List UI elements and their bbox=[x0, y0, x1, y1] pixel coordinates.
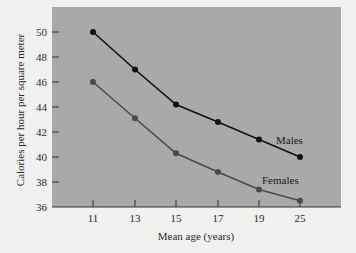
data-point bbox=[215, 119, 221, 125]
y-tick-label: 42 bbox=[36, 126, 47, 138]
data-point bbox=[90, 29, 96, 35]
x-tick-label: 13 bbox=[130, 212, 142, 224]
data-point bbox=[90, 79, 96, 85]
x-tick-label: 17 bbox=[213, 212, 225, 224]
data-point bbox=[256, 137, 262, 143]
data-point bbox=[297, 154, 303, 160]
data-point bbox=[173, 102, 179, 108]
y-tick-label: 36 bbox=[36, 201, 48, 213]
x-tick-label: 11 bbox=[88, 212, 99, 224]
x-tick-label: 19 bbox=[254, 212, 266, 224]
y-tick-label: 48 bbox=[36, 51, 48, 63]
data-point bbox=[173, 150, 179, 156]
y-tick-label: 44 bbox=[36, 101, 48, 113]
series-label-females: Females bbox=[262, 174, 299, 186]
data-point bbox=[256, 187, 262, 193]
y-tick-label: 50 bbox=[36, 26, 48, 38]
data-point bbox=[132, 67, 138, 73]
y-tick-label: 40 bbox=[36, 151, 48, 163]
y-tick-label: 46 bbox=[36, 76, 48, 88]
line-chart: 3638404244464850 111315171925 MalesFemal… bbox=[0, 0, 356, 253]
series-label-males: Males bbox=[276, 134, 303, 146]
data-point bbox=[132, 115, 138, 121]
y-tick-label: 38 bbox=[36, 176, 48, 188]
data-point bbox=[215, 169, 221, 175]
data-point bbox=[297, 198, 303, 204]
x-tick-label: 25 bbox=[295, 212, 307, 224]
y-axis-title: Calories per hour per square meter bbox=[14, 33, 26, 186]
x-axis-title: Mean age (years) bbox=[158, 230, 235, 243]
x-tick-label: 15 bbox=[171, 212, 183, 224]
